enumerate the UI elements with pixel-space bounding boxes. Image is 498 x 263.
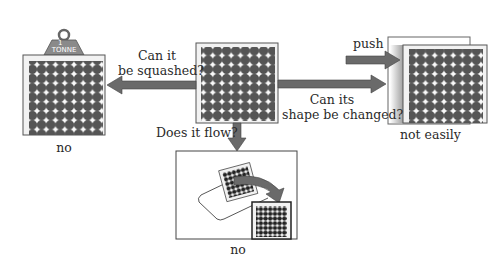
solid-sample-box [196, 43, 278, 123]
answer-flow: no [226, 242, 250, 257]
question-shape: Can its shape be changed? [282, 92, 382, 122]
arrow-left-icon [107, 76, 196, 94]
answer-squash: no [52, 140, 76, 155]
question-squash: Can it be squashed? [118, 48, 196, 78]
question-squash-line1: Can it [118, 48, 196, 63]
question-squash-line2: be squashed? [118, 63, 196, 78]
push-label: push [353, 36, 384, 51]
question-flow: Does it flow? [156, 125, 238, 140]
arrow-right-icon [278, 75, 386, 93]
flow-test-box [176, 151, 297, 239]
weight-label-tonne: TONNE [48, 47, 80, 54]
answer-shape: not easily [400, 127, 461, 142]
question-shape-line1: Can its [282, 92, 382, 107]
question-shape-line2: shape be changed? [282, 107, 382, 122]
